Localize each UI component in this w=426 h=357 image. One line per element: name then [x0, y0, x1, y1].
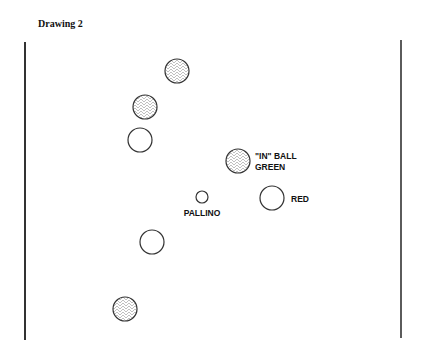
pallino-label: PALLINO — [184, 208, 221, 218]
in-ball-label-2: GREEN — [255, 162, 285, 172]
ball-3-ball — [128, 128, 152, 152]
ball-7-ball — [140, 230, 164, 254]
red-ball-ball — [260, 186, 284, 210]
ball-1-hatched-ball — [165, 59, 189, 83]
in-ball-hatched-ball — [226, 149, 250, 173]
ball-2-hatched-ball — [133, 95, 157, 119]
pallino-ball — [196, 191, 208, 203]
court-diagram: "IN" BALL GREEN PALLINO RED — [0, 0, 426, 357]
ball-8-hatched-ball — [113, 297, 137, 321]
red-label: RED — [291, 194, 309, 204]
in-ball-label-1: "IN" BALL — [255, 151, 297, 161]
